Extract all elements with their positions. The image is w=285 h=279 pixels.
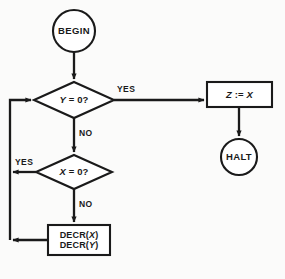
label-decrement-call-1: DECR( [60,230,89,240]
label-decrement-line-1: DECR(X) [60,230,99,240]
label-decrement-call-2: DECR( [60,240,89,250]
label-decrement: DECR(X)DECR(Y) [60,230,99,250]
label-test-x: X = 0? [59,167,88,178]
label-assign-z-operator: := [232,88,247,99]
label-test-y: Y = 0? [59,95,88,106]
label-test-x-condition: = 0? [66,166,89,177]
edge-label-test-x-yes: YES [15,157,33,167]
edge-label-test-y-no: NO [79,128,93,138]
label-decrement-close-1: ) [95,230,98,240]
flowchart-diagram: BEGIN Y = 0? Z := X HALT X = 0? DECR(X)D… [0,0,285,279]
label-decrement-line-2: DECR(Y) [60,240,99,250]
label-begin: BEGIN [58,26,90,37]
label-decrement-close-2: ) [95,240,98,250]
label-test-y-condition: = 0? [66,94,89,105]
label-assign-z-source: X [247,88,254,99]
label-assign-z: Z := X [226,89,253,100]
edge-label-test-y-yes: YES [117,84,135,94]
label-halt: HALT [226,152,252,163]
edge-label-test-x-no: NO [79,199,93,209]
flowchart-canvas [0,0,285,279]
edge-loop-return-to-test-y [10,100,31,240]
